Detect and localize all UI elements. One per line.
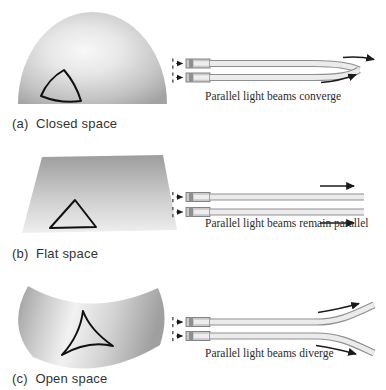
light-beam-top <box>210 64 359 71</box>
panel-c-caption: Parallel light beams diverge <box>205 347 334 359</box>
light-source-icon <box>172 317 210 327</box>
panel-a-label: (a) Closed space <box>12 116 117 131</box>
panel-b-caption: Parallel light beams remain parallel <box>205 217 369 229</box>
light-source-icon <box>172 59 210 69</box>
open-space-surface <box>8 280 178 375</box>
light-source-icon <box>172 192 210 202</box>
panel-a-caption: Parallel light beams converge <box>205 90 341 102</box>
dome-shape <box>18 12 167 104</box>
light-beam-top <box>210 305 374 322</box>
light-source-icon <box>172 207 210 217</box>
direction-arrow-top-icon <box>343 57 374 59</box>
light-source-icon <box>172 331 210 341</box>
curved-space-figure: Parallel light beams converge (a) Closed… <box>0 0 386 390</box>
light-source-icon <box>172 73 210 83</box>
panel-c-label: (c) Open space <box>12 371 108 386</box>
light-beam-bottom <box>210 70 359 78</box>
converging-beams <box>168 45 386 95</box>
plane-shape <box>22 155 177 233</box>
closed-space-surface <box>10 8 175 108</box>
panel-b-label: (b) Flat space <box>12 246 98 261</box>
flat-space-surface <box>10 148 182 238</box>
